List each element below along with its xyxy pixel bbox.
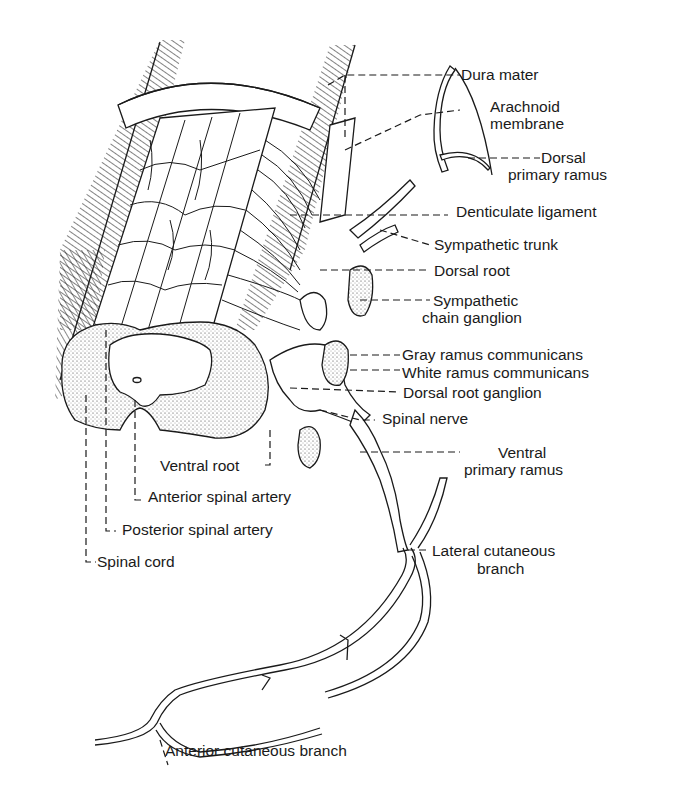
label-denticulate-ligament: Denticulate ligament xyxy=(456,203,596,220)
label-spinal-cord: Spinal cord xyxy=(97,553,175,570)
label-dorsal-root-ganglion: Dorsal root ganglion xyxy=(403,384,542,401)
label-ventral-root: Ventral root xyxy=(160,457,239,474)
label-anterior-spinal-artery: Anterior spinal artery xyxy=(148,488,291,505)
label-anterior-cutaneous-branch: Anterior cutaneous branch xyxy=(165,742,347,759)
label-posterior-spinal-artery: Posterior spinal artery xyxy=(122,521,273,538)
label-white-ramus-communicans: White ramus communicans xyxy=(402,364,589,381)
label-sympathetic-trunk: Sympathetic trunk xyxy=(434,236,558,253)
label-lateral-cutaneous-branch: Lateral cutaneous xyxy=(432,542,555,559)
label-dorsal-root: Dorsal root xyxy=(434,262,510,279)
label-ventral-primary-ramus: Ventral xyxy=(498,444,546,461)
label-sympathetic-chain-ganglion: Sympathetic xyxy=(433,292,518,309)
anatomy-illustration xyxy=(0,0,673,787)
spinal-cord-cross-section xyxy=(62,322,269,438)
label-arachnoid-membrane: Arachnoidmembrane xyxy=(490,98,564,132)
label-ventral-primary-ramus-line2: primary ramus xyxy=(464,461,563,478)
label-lateral-cutaneous-branch-line2: branch xyxy=(477,560,524,577)
label-dorsal-primary-ramus: Dorsal xyxy=(541,149,586,166)
spinal-nerve-diagram: Dura mater Arachnoidmembrane Dorsal prim… xyxy=(0,0,673,787)
label-gray-ramus-communicans: Gray ramus communicans xyxy=(402,346,583,363)
label-dura-mater: Dura mater xyxy=(461,66,539,83)
label-dorsal-primary-ramus-line2: primary ramus xyxy=(508,166,607,183)
label-spinal-nerve: Spinal nerve xyxy=(382,410,468,427)
label-sympathetic-chain-ganglion-line2: chain ganglion xyxy=(422,309,522,326)
